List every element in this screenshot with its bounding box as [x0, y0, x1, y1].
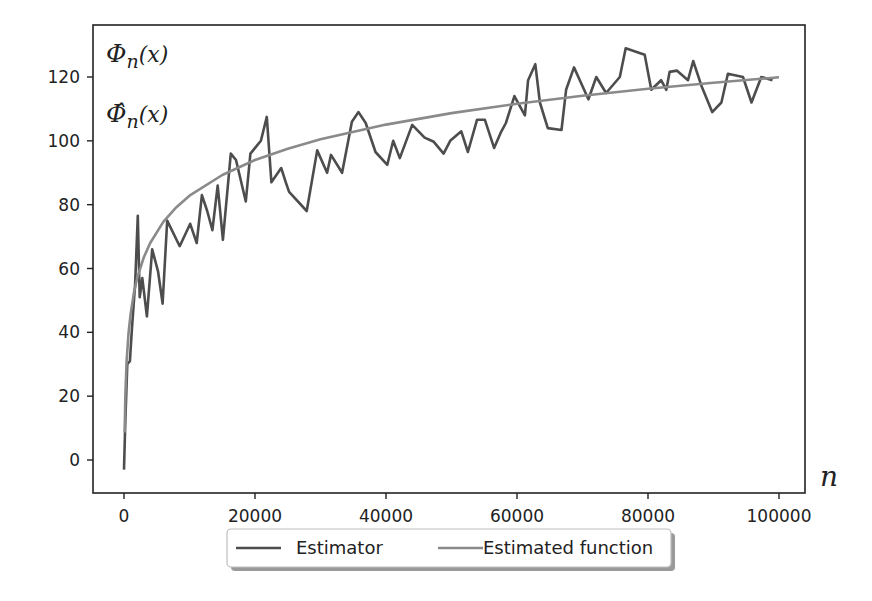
phi-hat-argument: (x)	[139, 102, 169, 127]
phi-argument: (x)	[139, 42, 169, 67]
x-tick-label: 0	[119, 506, 130, 526]
y-tick-label: 0	[69, 450, 80, 470]
y-tick-label: 60	[58, 259, 80, 279]
figure-background	[0, 0, 872, 601]
x-tick-label: 60000	[490, 506, 544, 526]
y-tick-label: 100	[48, 131, 80, 151]
y-tick-label: 80	[58, 195, 80, 215]
phi-hat-symbol: Φ̂	[106, 99, 127, 128]
legend-label-estimated-function: Estimated function	[483, 537, 653, 558]
legend-label-estimator: Estimator	[296, 537, 383, 558]
y-tick-label: 40	[58, 322, 80, 342]
legend: Estimator Estimated function	[227, 529, 675, 571]
y-tick-label: 120	[48, 67, 80, 87]
x-axis-label: n	[820, 460, 838, 493]
x-tick-label: 20000	[228, 506, 282, 526]
x-tick-label: 40000	[359, 506, 413, 526]
x-tick-label: 80000	[621, 506, 675, 526]
phi-hat-subscript: n	[127, 110, 139, 132]
chart-canvas: 020000400006000080000100000 020406080100…	[0, 0, 872, 601]
x-tick-label: 100000	[747, 506, 812, 526]
y-tick-label: 20	[58, 386, 80, 406]
phi-subscript: n	[127, 50, 139, 72]
phi-symbol: Φ	[106, 39, 127, 68]
